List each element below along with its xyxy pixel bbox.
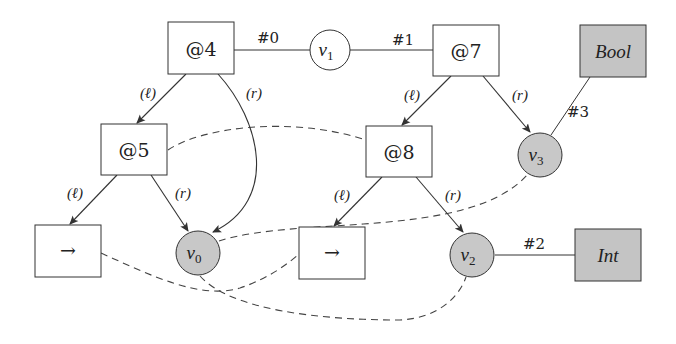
edge-label-at8-left: (ℓ) [334,187,350,204]
edge-at8-v2 [416,177,463,232]
node-at5: @5 [101,124,167,175]
node-v1: v1 [310,30,350,70]
edge-label-at5-right: (r) [175,185,191,202]
node-int-label: Int [596,245,619,266]
edge-label-at5-left: (ℓ) [67,185,83,202]
edge-at5-v0 [151,175,188,231]
node-v2: v2 [450,233,494,277]
node-at8: @8 [366,126,432,177]
edge-label-hash3: #3 [567,103,589,121]
node-v0: v0 [176,231,220,275]
dashed-edge-at5-at8 [168,126,366,150]
node-arrow-left: → [35,225,101,277]
edge-label-hash1: #1 [392,31,414,49]
node-arrow-mid: → [299,227,365,279]
edge-label-hash2: #2 [523,235,545,253]
edge-label-hash0: #0 [257,29,279,47]
edge-label-at7-left: (ℓ) [404,87,420,104]
edge-label-at4-right: (r) [246,85,262,102]
node-at8-label: @8 [383,141,414,163]
type-graph-diagram: @4 v1 @7 Bool @5 @8 v3 → v0 → [0,0,676,344]
node-at5-label: @5 [118,139,149,161]
node-arrow-mid-label: → [324,241,340,263]
node-bool: Bool [580,25,646,77]
edge-label-at4-left: (ℓ) [140,85,156,102]
edge-label-at8-right: (r) [445,187,461,204]
node-arrow-left-label: → [60,239,76,261]
node-bool-label: Bool [595,41,631,62]
node-at4-label: @4 [185,38,216,60]
node-at4: @4 [168,22,234,74]
node-at7-label: @7 [450,40,481,62]
edge-at7-v3 [483,76,530,132]
node-at7: @7 [433,25,499,76]
node-v3: v3 [518,133,562,177]
edge-label-at7-right: (r) [512,87,528,104]
node-int: Int [575,229,641,281]
dashed-edge-v0-v3 [219,174,528,241]
dashed-edge-v0-v2 [200,276,466,320]
